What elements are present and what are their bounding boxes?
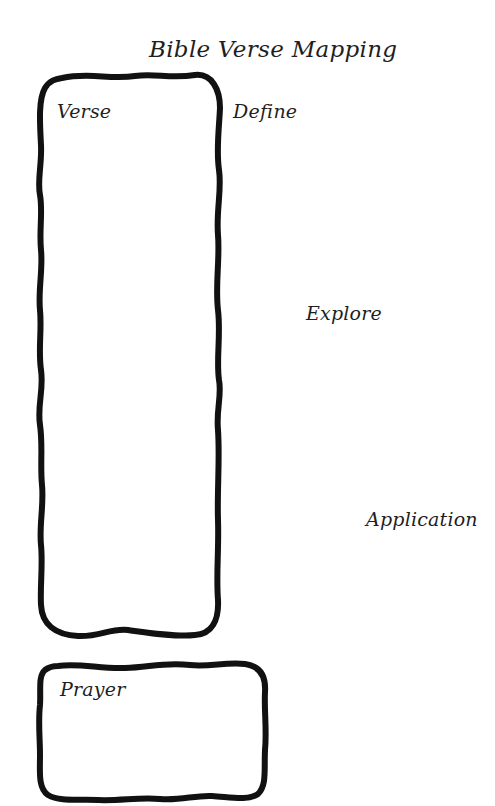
worksheet-page: Bible Verse Mapping Verse Define Explore… [0,0,495,806]
define-label: Define [233,100,297,122]
define-area[interactable] [228,96,488,286]
application-label: Application [366,508,478,530]
prayer-label: Prayer [60,678,125,700]
explore-label: Explore [306,302,382,324]
explore-area[interactable] [228,296,488,496]
verse-area[interactable] [44,82,216,632]
verse-label: Verse [57,100,111,122]
worksheet-title: Bible Verse Mapping [149,36,397,62]
